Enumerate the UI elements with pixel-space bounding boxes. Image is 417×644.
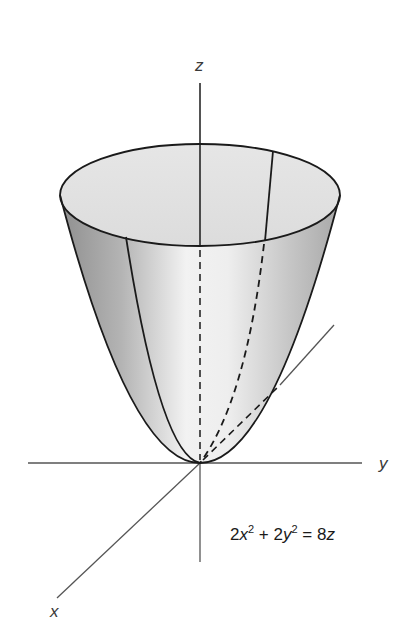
eq-equals: = bbox=[302, 525, 312, 544]
eq-var-x: x bbox=[239, 525, 248, 544]
x-axis-label: x bbox=[50, 603, 59, 620]
equation-label: 2x2 + 2y2 = 8z bbox=[230, 526, 335, 543]
z-axis-label: z bbox=[195, 57, 204, 74]
y-axis-label: y bbox=[379, 455, 388, 472]
eq-exp-y: 2 bbox=[291, 523, 297, 535]
eq-coef-y: 2 bbox=[274, 525, 283, 544]
eq-plus: + bbox=[259, 525, 269, 544]
eq-var-z: z bbox=[326, 525, 335, 544]
x-axis-line-front bbox=[57, 463, 200, 598]
paraboloid-diagram bbox=[0, 0, 417, 644]
eq-exp-x: 2 bbox=[248, 523, 254, 535]
